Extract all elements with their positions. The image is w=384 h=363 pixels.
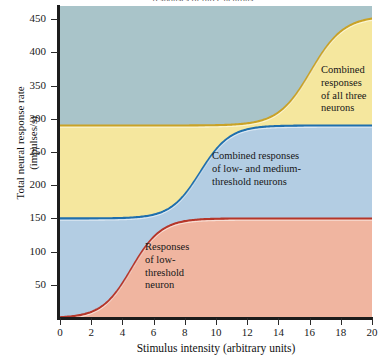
y-tick [51,185,58,186]
x-tick [278,318,279,325]
x-axis-title: Stimulus intensity (arbitrary units) [60,342,372,354]
x-tick-label: 0 [46,327,74,338]
y-tick [51,285,58,286]
x-tick-label: 12 [233,327,261,338]
x-tick [154,318,155,325]
x-tick-label: 10 [202,327,230,338]
figure-title: responses of three neurons [88,0,318,1]
x-tick [341,318,342,325]
x-tick-label: 8 [171,327,199,338]
x-tick [185,318,186,325]
x-tick-label: 16 [296,327,324,338]
y-tick [51,218,58,219]
y-tick [51,252,58,253]
y-tick [51,52,58,53]
x-tick [372,318,373,325]
y-tick [51,119,58,120]
y-tick [51,86,58,87]
x-tick [247,318,248,325]
x-tick [310,318,311,325]
x-tick [60,318,61,325]
x-tick-label: 18 [327,327,355,338]
x-tick-label: 2 [77,327,105,338]
annotation-low-medium-threshold: Combined responses of low- and medium- t… [212,150,330,188]
y-tick [51,19,58,20]
figure-container: responses of three neurons 5010015020025… [0,0,384,363]
y-tick-label: 50 [6,279,46,290]
x-tick-label: 20 [358,327,384,338]
annotation-all-three-neurons: Combined responses of all three neurons [321,64,383,115]
x-tick-label: 14 [264,327,292,338]
y-tick-label: 450 [6,13,46,24]
x-tick [91,318,92,325]
y-axis-title: Total neural response rate(impulses/s) [14,28,40,258]
x-tick-label: 6 [140,327,168,338]
y-tick [51,152,58,153]
x-axis-line [57,317,373,320]
x-tick [122,318,123,325]
annotation-low-threshold: Responses of low- threshold neuron [145,241,235,292]
x-tick-label: 4 [108,327,136,338]
x-tick [216,318,217,325]
